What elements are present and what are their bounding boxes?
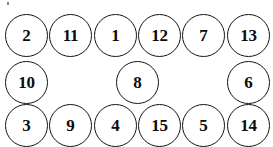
- node-label: 11: [63, 27, 79, 44]
- stray-speck-artifact: [7, 2, 9, 5]
- node-label: 9: [66, 117, 74, 134]
- node-circle-12[interactable]: 12: [138, 14, 181, 57]
- node-label: 4: [111, 117, 119, 134]
- node-circle-5[interactable]: 5: [182, 104, 225, 147]
- node-label: 8: [133, 74, 141, 91]
- node-label: 1: [111, 27, 119, 44]
- node-circle-3[interactable]: 3: [5, 104, 48, 147]
- node-label: 13: [240, 27, 257, 44]
- node-label: 6: [244, 74, 252, 91]
- node-circle-11[interactable]: 11: [49, 14, 92, 57]
- node-label: 14: [240, 117, 257, 134]
- node-label: 3: [22, 117, 30, 134]
- node-circle-1[interactable]: 1: [94, 14, 137, 57]
- node-circle-13[interactable]: 13: [227, 14, 270, 57]
- node-circle-4[interactable]: 4: [94, 104, 137, 147]
- node-circle-6[interactable]: 6: [227, 61, 270, 104]
- node-circle-15[interactable]: 15: [138, 104, 181, 147]
- node-label: 2: [22, 27, 30, 44]
- node-label: 7: [199, 27, 207, 44]
- node-circle-14[interactable]: 14: [227, 104, 270, 147]
- node-canvas: 211112713108639415514: [0, 0, 273, 147]
- node-circle-7[interactable]: 7: [182, 14, 225, 57]
- node-circle-10[interactable]: 10: [5, 61, 48, 104]
- node-label: 12: [151, 27, 168, 44]
- node-label: 5: [199, 117, 207, 134]
- node-circle-2[interactable]: 2: [5, 14, 48, 57]
- node-label: 10: [18, 74, 35, 91]
- node-circle-8[interactable]: 8: [116, 61, 159, 104]
- node-label: 15: [151, 117, 168, 134]
- node-circle-9[interactable]: 9: [49, 104, 92, 147]
